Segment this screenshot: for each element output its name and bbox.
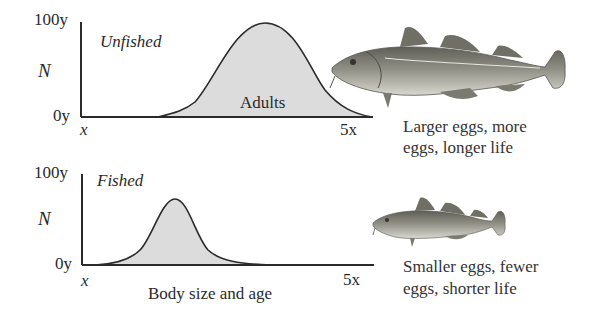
unfished-panel-label: Unfished bbox=[100, 32, 161, 52]
unfished-y-max-label: 100y bbox=[34, 10, 68, 30]
fished-panel-label: Fished bbox=[97, 171, 143, 191]
unfished-y-axis-title: N bbox=[38, 60, 51, 82]
fished-curve-area bbox=[95, 199, 270, 265]
unfished-x-max-label: 5x bbox=[340, 120, 357, 140]
unfished-caption-line1: Larger eggs, more bbox=[403, 116, 527, 137]
large-cod-fish-icon bbox=[330, 27, 565, 108]
fished-y-axis-title: N bbox=[38, 208, 51, 230]
unfished-x-min-label: x bbox=[80, 120, 88, 140]
adults-annotation: Adults bbox=[240, 93, 285, 113]
fished-x-min-label: x bbox=[81, 271, 89, 291]
fished-x-max-label: 5x bbox=[343, 270, 360, 290]
fished-y-min-label: 0y bbox=[55, 254, 72, 274]
fished-caption-line2: eggs, shorter life bbox=[403, 278, 517, 299]
unfished-caption-line2: eggs, longer life bbox=[403, 137, 513, 158]
unfished-y-min-label: 0y bbox=[53, 106, 70, 126]
fished-caption-line1: Smaller eggs, fewer bbox=[403, 256, 538, 277]
small-cod-fish-icon bbox=[373, 198, 505, 247]
x-axis-title: Body size and age bbox=[148, 284, 272, 304]
fished-y-max-label: 100y bbox=[34, 163, 68, 183]
